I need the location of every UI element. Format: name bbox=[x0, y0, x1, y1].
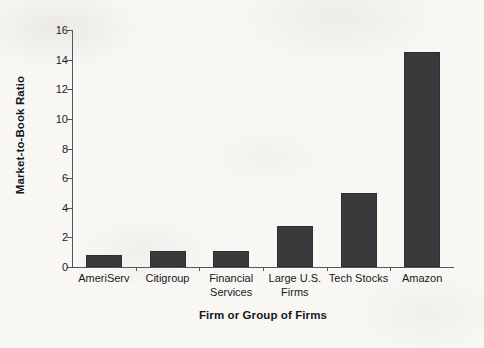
plot-area: 0246810121416 bbox=[72, 30, 454, 267]
bar bbox=[213, 251, 249, 267]
y-tick-label: 16 bbox=[56, 22, 68, 38]
y-tick-label: 6 bbox=[62, 170, 68, 186]
x-tick-mark bbox=[263, 267, 264, 271]
y-tick-label: 14 bbox=[56, 52, 68, 68]
x-tick-mark bbox=[136, 267, 137, 271]
bar bbox=[150, 251, 186, 267]
x-category-label: Financial Services bbox=[199, 272, 263, 299]
x-category-label: Large U.S. Firms bbox=[263, 272, 327, 299]
y-tick-label: 2 bbox=[62, 229, 68, 245]
y-tick-label: 12 bbox=[56, 81, 68, 97]
chart-figure: Market-to-Book Ratio 0246810121416 Ameri… bbox=[0, 0, 484, 348]
y-axis-title: Market-to-Book Ratio bbox=[14, 0, 26, 50]
y-tick-label: 4 bbox=[62, 200, 68, 216]
x-tick-mark bbox=[199, 267, 200, 271]
x-tick-mark bbox=[327, 267, 328, 271]
y-tick-label: 8 bbox=[62, 141, 68, 157]
x-category-label: AmeriServ bbox=[72, 272, 136, 286]
bar bbox=[86, 255, 122, 267]
y-tick-label: 10 bbox=[56, 111, 68, 127]
bar bbox=[404, 52, 440, 267]
bar bbox=[277, 226, 313, 267]
x-axis-title: Firm or Group of Firms bbox=[72, 309, 454, 321]
y-axis-title-label: Market-to-Book Ratio bbox=[14, 50, 26, 220]
x-category-label: Amazon bbox=[390, 272, 454, 286]
x-category-label: Tech Stocks bbox=[327, 272, 391, 286]
y-axis-line bbox=[72, 30, 73, 267]
bar bbox=[341, 193, 377, 267]
x-category-label: Citigroup bbox=[136, 272, 200, 286]
y-tick-label: 0 bbox=[62, 259, 68, 275]
x-tick-mark bbox=[390, 267, 391, 271]
